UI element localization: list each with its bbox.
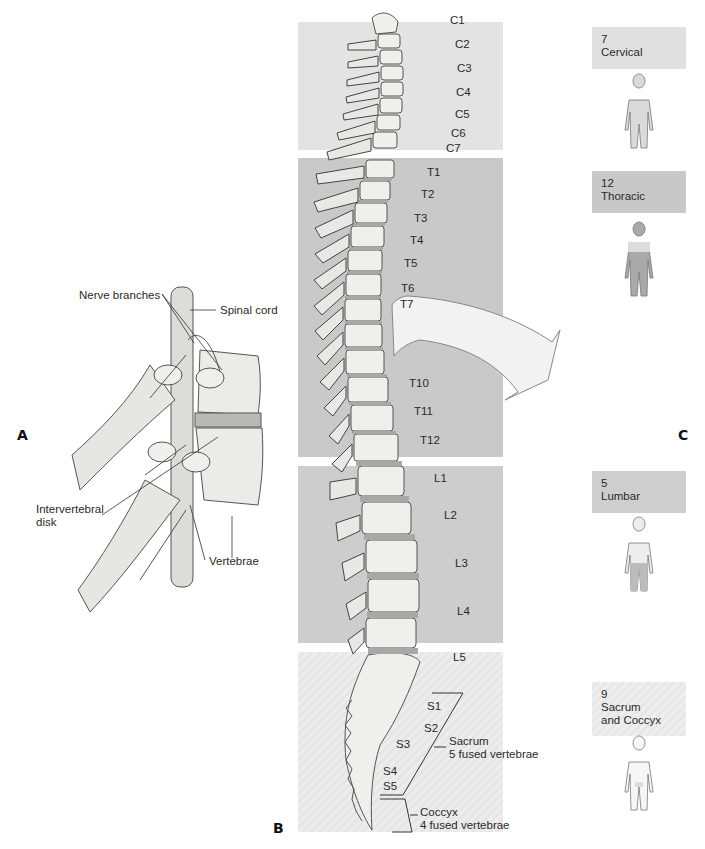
figure-cervical-icon [625,74,653,148]
figure-thoracic-icon [625,222,653,296]
figure-sacrum-coccyx-icon [625,736,653,810]
human-figures [0,0,705,849]
figure-lumbar-icon [625,517,653,591]
